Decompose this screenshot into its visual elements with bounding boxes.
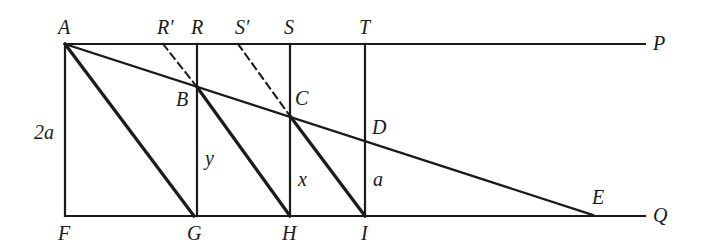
label-Q: Q [653,204,668,226]
label-T: T [359,16,372,38]
measure-TI: a [373,168,383,190]
label-R-prime: R′ [156,16,174,38]
measure-RG: y [203,147,214,170]
geometry-diagram: A R′ R S′ S T P B C D E F G H I Q 2a y x… [0,0,702,252]
dashed-SprimeC [238,44,290,116]
label-F: F [57,222,71,244]
transversal-AE [65,44,593,215]
label-S: S [284,16,294,38]
label-H: H [281,222,298,244]
label-D: D [371,116,387,138]
label-P: P [652,32,665,54]
label-C: C [295,87,309,109]
label-E: E [591,186,604,208]
diagonal-AG [65,44,194,216]
label-R: R [190,16,203,38]
label-A: A [56,16,71,38]
measure-AF: 2a [34,121,54,143]
diagonal-CI [290,116,365,216]
label-G: G [187,222,202,244]
label-S-prime: S′ [235,16,250,38]
label-B: B [176,88,188,110]
measure-SH: x [297,168,307,190]
label-I: I [360,222,369,244]
